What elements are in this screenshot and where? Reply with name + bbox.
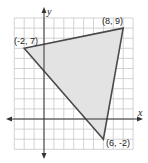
y-axis-arrow-down-icon [42,153,47,159]
x-axis-arrow-left-icon [6,117,12,122]
vertex-label-b: (8, 9) [102,16,123,26]
y-axis-arrow-up-icon [42,7,47,13]
y-axis-label: y [46,6,52,17]
x-axis-label: x [137,107,143,118]
vertex-label-a: (-2, 7) [14,36,38,46]
coordinate-plane: x y (-2, 7) (8, 9) (6, -2) [0,0,148,163]
vertex-label-c: (6, -2) [106,138,130,148]
